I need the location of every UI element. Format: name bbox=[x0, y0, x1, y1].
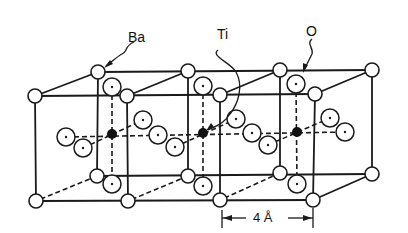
crystal-lattice-drawing bbox=[0, 0, 408, 233]
o-label: O bbox=[306, 24, 317, 38]
ba-label: Ba bbox=[128, 30, 145, 44]
ti-label: Ti bbox=[217, 27, 228, 41]
lattice-constant-label: 4 Å bbox=[253, 211, 273, 224]
